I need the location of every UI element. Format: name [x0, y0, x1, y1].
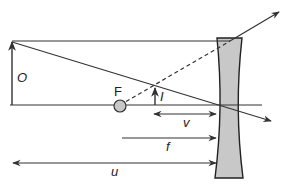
- virtual-ray-dashed: [120, 41, 230, 105]
- object-label: O: [17, 70, 27, 85]
- focal-point-label: F: [114, 84, 122, 99]
- refracted-ray: [230, 12, 279, 41]
- ray-diagram: O F I v f u: [0, 0, 286, 190]
- object-distance-label: u: [111, 164, 118, 179]
- image-label: I: [160, 89, 164, 104]
- focal-point-marker: [114, 100, 126, 112]
- focal-length-label: f: [166, 139, 171, 154]
- image-distance-label: v: [183, 115, 191, 130]
